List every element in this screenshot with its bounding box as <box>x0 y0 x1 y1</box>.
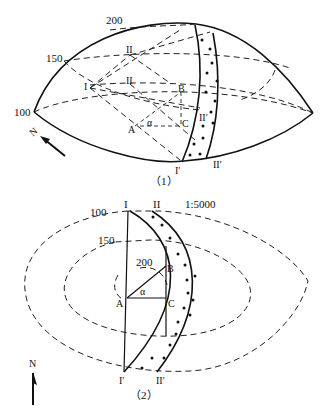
contour-mid-plane <box>90 83 313 113</box>
point-label-B: B <box>167 263 174 274</box>
contour-label-200: 200 <box>136 256 153 268</box>
line-A-B <box>127 266 166 298</box>
contour-label-100: 100 <box>90 206 107 218</box>
scale-label: 1:5000 <box>185 198 216 210</box>
ore-boundary-II <box>206 33 218 159</box>
figure-2-caption: （2） <box>130 389 158 401</box>
point-label-IIprime: II′ <box>156 375 165 386</box>
point-label-I: I <box>124 198 128 210</box>
contour-label-150: 150 <box>46 52 63 64</box>
point-label-II: II <box>153 198 161 210</box>
point-label-C: C <box>182 118 189 129</box>
figure-1-caption: （1） <box>150 175 178 187</box>
contour-100-back <box>34 92 313 113</box>
contour-150-back <box>64 54 290 68</box>
contour-label-100: 100 <box>14 106 31 118</box>
point-label-C: C <box>168 298 175 309</box>
point-label-II-top: II <box>126 44 133 55</box>
angle-label-alpha: α <box>140 286 146 297</box>
contour-label-150: 150 <box>98 234 115 246</box>
north-label-2: N <box>29 358 36 369</box>
contour-150 <box>64 240 250 336</box>
point-label-I-left: I <box>84 81 87 92</box>
ore-boundary-I <box>182 25 200 162</box>
point-label-Iprime: I′ <box>119 375 125 386</box>
point-label-II-mid: II <box>126 75 133 86</box>
section-line-I <box>124 211 128 372</box>
figure-1-hill-perspective: 200 150 100 II II I B A C α II′ I′ II′ N… <box>14 14 313 187</box>
point-label-IIprime: II′ <box>213 159 222 170</box>
point-label-B: B <box>178 83 185 94</box>
line-II-B <box>130 55 170 83</box>
point-label-A: A <box>116 298 124 309</box>
figure-2-plan-view: I II 1:5000 100 150 200 B A C α I′ II′ N… <box>25 198 308 405</box>
point-label-A: A <box>128 124 136 135</box>
ore-boundary-I <box>124 211 171 372</box>
diagram-canvas: 200 150 100 II II I B A C α II′ I′ II′ N… <box>0 0 326 417</box>
hill-outline-bottom <box>34 112 313 162</box>
contour-label-200: 200 <box>106 14 123 26</box>
contour-right-inner <box>240 70 275 100</box>
angle-label-alpha: α <box>147 117 153 128</box>
north-arrow-icon-2: N <box>29 358 37 405</box>
point-label-IIprime-inner: II′ <box>199 112 208 123</box>
north-label-1: N <box>27 125 40 138</box>
